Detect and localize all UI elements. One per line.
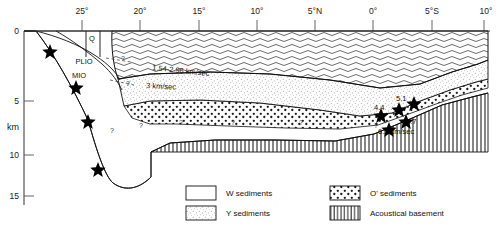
x-tick-label: 5°S <box>425 6 439 16</box>
legend-label-w-sediments: W sediments <box>226 189 272 198</box>
legend-swatch-y-sediments <box>186 206 216 220</box>
velocity-label: 3 km/sec <box>146 81 177 92</box>
query-mark: ? <box>299 119 303 126</box>
station-star <box>68 80 83 95</box>
legend: W sediments O' sediments Y sediments Aco… <box>182 183 496 225</box>
legend-swatch-o-sediments <box>330 186 360 200</box>
y-tick-label: 15 <box>10 191 20 201</box>
query-mark: ? <box>126 80 130 87</box>
x-tick-label: 5°N <box>308 6 322 16</box>
query-mark: ? <box>231 119 235 126</box>
legend-swatch-w-sediments <box>186 186 216 200</box>
legend-label-acoustical-basement: Acoustical basement <box>370 209 445 218</box>
strat-label-q: Q <box>89 34 95 43</box>
strat-labels: Q PLIO MIO <box>72 34 95 80</box>
y-axis-ticks <box>24 31 34 196</box>
x-tick-label: 10° <box>480 6 493 16</box>
velocity-label: 4.4 <box>374 103 384 112</box>
y-axis-tick-labels: 0 5 10 15 km <box>7 26 19 201</box>
station-star <box>90 162 105 177</box>
strat-label-mio: MIO <box>72 71 86 80</box>
station-star <box>80 114 95 129</box>
strat-label-plio: PLIO <box>75 57 92 66</box>
legend-label-o-sediments: O' sediments <box>370 189 416 198</box>
figure-root: 25° 20° 15° 10° 5°N 0° 5°S 10° 0 5 10 15… <box>0 0 500 230</box>
x-axis-ticks <box>82 20 484 31</box>
x-tick-label: 20° <box>134 6 147 16</box>
y-tick-label: 10 <box>10 150 20 160</box>
y-tick-label: 0 <box>14 26 19 36</box>
velocity-label: 5.1 <box>396 94 406 103</box>
x-tick-label: 0° <box>369 6 377 16</box>
query-mark: ? <box>139 122 143 129</box>
x-tick-label: 15° <box>193 6 206 16</box>
query-mark: ? <box>374 122 378 129</box>
legend-label-y-sediments: Y sediments <box>226 209 270 218</box>
query-mark: ? <box>179 119 183 126</box>
cross-section-svg: 25° 20° 15° 10° 5°N 0° 5°S 10° 0 5 10 15… <box>0 0 500 230</box>
query-mark: ? <box>121 55 125 62</box>
legend-swatch-acoustical-basement <box>330 206 360 220</box>
x-tick-label: 25° <box>76 6 89 16</box>
x-tick-label: 10° <box>251 6 264 16</box>
x-axis-tick-labels: 25° 20° 15° 10° 5°N 0° 5°S 10° <box>76 6 493 16</box>
y-axis-unit-label: km <box>7 122 19 132</box>
y-tick-label: 5 <box>14 96 19 106</box>
station-star <box>42 44 57 59</box>
query-mark: ? <box>110 127 114 134</box>
